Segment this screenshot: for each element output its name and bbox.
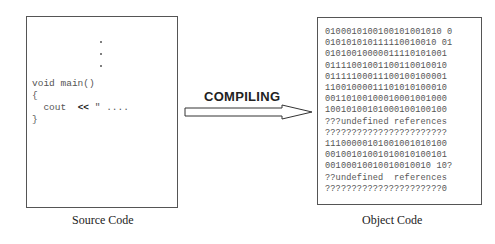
object-code-line: 00100101001010010100101 <box>325 150 452 161</box>
object-code-line: 01010010000011110101001 <box>325 49 452 60</box>
object-code-line: ??undefined references <box>325 173 452 184</box>
ellipsis-dot <box>100 53 102 55</box>
code-line: { <box>32 90 38 102</box>
code-line: } <box>32 114 38 126</box>
arrow-right-icon <box>184 104 314 120</box>
object-code-line: 10010100101000100100100 <box>325 105 452 116</box>
code-cout: cout <box>32 102 66 113</box>
stream-operator: << <box>78 102 89 113</box>
source-code-box: void main() { cout << " .... } <box>26 16 178 208</box>
object-code-line: 010101010111110010010 01 <box>325 38 452 49</box>
source-code-caption: Source Code <box>72 213 134 228</box>
code-line: void main() <box>32 78 95 90</box>
code-string: " .... <box>89 102 129 113</box>
object-code-line: 00100010010010010010 10? <box>325 161 452 172</box>
object-code-line: ??????????????????????0 <box>325 184 452 195</box>
ellipsis-dot <box>100 65 102 67</box>
object-code-line: 11001000011101010100010 <box>325 83 452 94</box>
object-code-line: ???undefined references <box>325 117 452 128</box>
object-code-box: 0100010100100101001010 00101010101111100… <box>317 17 482 205</box>
object-code-text: 0100010100100101001010 00101010101111100… <box>325 27 452 195</box>
object-code-line: 0100010100100101001010 0 <box>325 27 452 38</box>
compiling-label: COMPILING <box>204 89 280 104</box>
ellipsis-dot <box>100 41 102 43</box>
object-code-caption: Object Code <box>362 213 422 228</box>
code-line-cout: cout << " .... <box>32 102 129 114</box>
object-code-line: 01111100011100100100001 <box>325 72 452 83</box>
object-code-line: ??????????????????????? <box>325 128 452 139</box>
object-code-line: 01111001001100110010010 <box>325 61 452 72</box>
object-code-line: 11100000101001001010100 <box>325 139 452 150</box>
object-code-line: 00110100100010001001000 <box>325 94 452 105</box>
